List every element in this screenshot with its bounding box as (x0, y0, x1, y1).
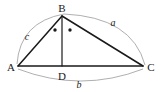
vertex-label-a: A (7, 61, 15, 73)
vertex-label-b: B (58, 2, 65, 14)
geometry-diagram: A B C D a b c (0, 0, 165, 92)
vertex-label-c: C (147, 61, 154, 73)
triangle-figure-canvas: A B C D a b c (0, 0, 165, 92)
angle-dot-right-icon (68, 28, 71, 31)
side-label-c: c (25, 31, 30, 42)
side-label-a: a (111, 17, 116, 28)
side-arc-a (64, 14, 145, 65)
vertex-label-d: D (58, 70, 66, 82)
side-label-b: b (77, 79, 82, 90)
segment-bc (62, 16, 143, 66)
angle-dot-left-icon (53, 28, 56, 31)
